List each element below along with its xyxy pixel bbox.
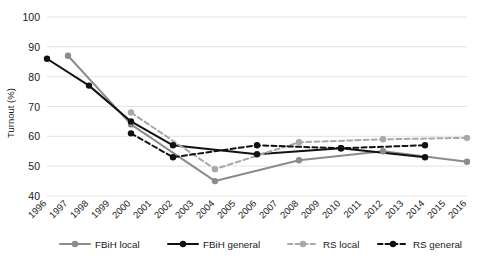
legend-item-label: FBiH general [203, 239, 260, 250]
legend-marker-swatch [180, 241, 186, 247]
data-point-marker [212, 166, 218, 172]
y-axis-tick-label: 50 [28, 160, 40, 172]
y-axis-label: Turnout (%) [5, 88, 16, 138]
chart-background [0, 0, 477, 271]
figure-container: 405060708090100 199619971998199920002001… [0, 0, 477, 271]
data-point-marker [422, 154, 428, 160]
data-point-marker [170, 154, 176, 160]
legend-item-label: RS local [323, 239, 359, 250]
data-point-marker [212, 178, 218, 184]
data-point-marker [170, 142, 176, 148]
legend-marker-swatch [390, 241, 396, 247]
data-point-marker [296, 157, 302, 163]
data-point-marker [128, 118, 134, 124]
data-point-marker [254, 142, 260, 148]
data-point-marker [338, 145, 344, 151]
data-point-marker [44, 56, 50, 62]
legend-item-label: FBiH local [95, 239, 140, 250]
y-axis-tick-label: 100 [22, 11, 40, 23]
data-point-marker [86, 82, 92, 88]
data-point-marker [380, 136, 386, 142]
data-point-marker [380, 148, 386, 154]
legend-item-label: RS general [413, 239, 462, 250]
data-point-marker [254, 151, 260, 157]
data-point-marker [464, 158, 470, 164]
legend-marker-swatch [72, 241, 78, 247]
y-axis-tick-label: 90 [28, 41, 40, 53]
data-point-marker [464, 135, 470, 141]
data-point-marker [422, 142, 428, 148]
data-point-marker [128, 109, 134, 115]
y-axis-tick-label: 60 [28, 130, 40, 142]
data-point-marker [65, 53, 71, 59]
data-point-marker [128, 130, 134, 136]
y-axis-tick-label: 80 [28, 71, 40, 83]
data-point-marker [296, 139, 302, 145]
y-axis-tick-label: 70 [28, 101, 40, 113]
legend-marker-swatch [300, 241, 306, 247]
turnout-line-chart: 405060708090100 199619971998199920002001… [0, 0, 477, 271]
